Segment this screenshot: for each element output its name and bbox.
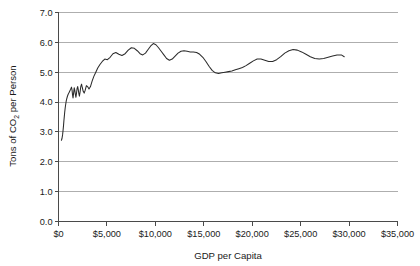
x-tick-label-5: $25,000: [284, 229, 317, 239]
x-tick-label-4: $20,000: [236, 229, 269, 239]
y-tick-label-5: 5.0: [40, 68, 53, 78]
x-tick-label-6: $30,000: [332, 229, 365, 239]
x-tick-label-0: $0: [53, 229, 63, 239]
y-axis-title-suffix: per Person: [7, 65, 18, 115]
y-axis-tick-labels: 0.01.02.03.04.05.06.07.0: [40, 8, 53, 227]
y-axis-title-prefix: Tons of CO: [7, 119, 18, 167]
y-tick-label-1: 1.0: [40, 187, 53, 197]
chart-gridlines: [59, 13, 398, 192]
x-axis-ticks: [59, 222, 398, 226]
y-tick-label-4: 4.0: [40, 97, 53, 107]
x-tick-label-7: $35,000: [381, 229, 414, 239]
x-axis-tick-labels: $0$5,000$10,000$15,000$20,000$25,000$30,…: [53, 229, 414, 239]
y-tick-label-0: 0.0: [40, 217, 53, 227]
co2-vs-gdp-line-chart: 0.01.02.03.04.05.06.07.0 $0$5,000$10,000…: [0, 0, 420, 266]
series-line-0: [61, 44, 344, 141]
x-tick-label-1: $5,000: [93, 229, 121, 239]
y-tick-label-7: 7.0: [40, 8, 53, 18]
x-axis-title: GDP per Capita: [194, 250, 262, 261]
x-tick-label-2: $10,000: [139, 229, 172, 239]
y-tick-label-2: 2.0: [40, 157, 53, 167]
y-tick-label-3: 3.0: [40, 127, 53, 137]
y-axis-title: Tons of CO2 per Person: [7, 65, 20, 166]
chart-series-group: [61, 44, 344, 141]
x-tick-label-3: $15,000: [187, 229, 220, 239]
y-tick-label-6: 6.0: [40, 38, 53, 48]
chart-axes: [59, 13, 398, 222]
